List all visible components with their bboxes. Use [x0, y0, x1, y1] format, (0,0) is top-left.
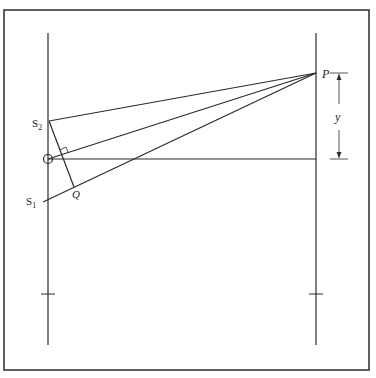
ray-origin-to-p	[48, 73, 316, 159]
label-p: P	[321, 67, 330, 81]
perpendicular-s2-q	[49, 121, 74, 187]
y-dim-arrow-up	[337, 74, 342, 80]
label-s2: S2	[32, 117, 42, 132]
label-s1: S1	[26, 195, 36, 210]
label-q: Q	[72, 188, 80, 200]
diagram-canvas: P y S2 S1 Q	[0, 0, 376, 378]
label-y: y	[334, 110, 341, 124]
ray-s1-to-p	[43, 73, 316, 202]
y-dim-arrow-down	[337, 152, 342, 158]
right-angle-marker	[60, 147, 68, 152]
ray-s2-to-p	[49, 73, 316, 121]
frame-border	[4, 10, 369, 370]
